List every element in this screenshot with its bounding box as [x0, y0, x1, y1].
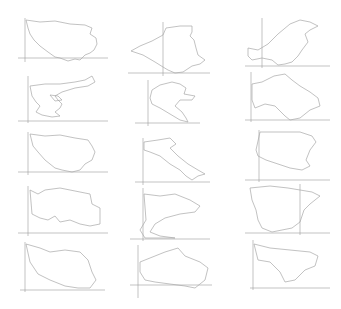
panel-r2c0: [18, 132, 108, 175]
panel-r0c0: [18, 18, 108, 62]
panel-r0c1: [128, 22, 210, 76]
panel-r3c1: [130, 188, 210, 241]
panel-r4c1: [130, 245, 212, 298]
outline-plot-grid: [0, 0, 341, 309]
plots-canvas: [0, 0, 341, 309]
panel-r4c0: [20, 242, 105, 292]
panel-r1c1: [135, 80, 200, 126]
panel-r3c0: [18, 186, 108, 236]
panel-r1c2: [245, 72, 330, 122]
panel-r2c2: [245, 130, 330, 182]
panel-r4c2: [250, 240, 330, 290]
panel-r2c1: [135, 138, 210, 185]
panel-r1c0: [18, 76, 108, 123]
panel-r0c2: [245, 18, 330, 68]
panel-r3c2: [245, 184, 330, 235]
